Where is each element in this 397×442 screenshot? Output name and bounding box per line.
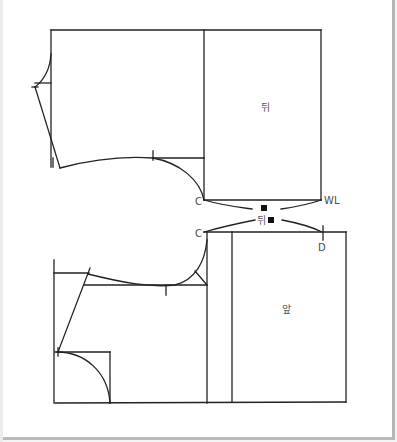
point-label-front-c: C [195,229,202,239]
notch-back-mark-label: 뒤 [257,216,266,226]
back-panel-label: 뒤 [261,103,270,113]
front-panel-label: 앞 [282,305,291,315]
point-label-d: D [318,243,326,253]
point-label-waistline: WL [324,196,339,206]
pattern-diagram [0,0,397,442]
notch-square-top [261,205,267,211]
back-panel [32,30,321,200]
notch-square-bottom [268,217,274,223]
front-panel [54,226,346,403]
point-label-back-c: C [195,197,202,207]
